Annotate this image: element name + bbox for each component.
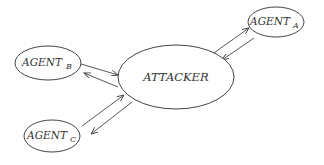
node-agent-a-label: AGENT bbox=[249, 15, 291, 27]
node-agent-b-subscript: B bbox=[65, 62, 72, 71]
node-attacker: ATTACKER bbox=[118, 45, 234, 109]
edge-agent-b-to-attacker bbox=[81, 64, 118, 75]
node-agent-a: AGENT A bbox=[248, 7, 304, 37]
edge-attacker-to-agent-b bbox=[84, 73, 118, 87]
node-agent-c: AGENT C bbox=[24, 120, 80, 152]
node-agent-a-subscript: A bbox=[292, 21, 299, 30]
node-agent-b: AGENT B bbox=[15, 46, 81, 80]
edge-attacker-to-agent-c bbox=[91, 102, 132, 134]
edge-agent-c-to-attacker bbox=[82, 95, 124, 126]
diagram-canvas: ATTACKER AGENT A AGENT B AGENT C bbox=[0, 0, 324, 165]
edge-agent-a-to-attacker bbox=[222, 38, 254, 60]
edge-attacker-to-agent-a bbox=[211, 28, 249, 55]
node-agent-b-label: AGENT bbox=[21, 56, 63, 68]
node-agent-c-label: AGENT bbox=[26, 129, 68, 141]
node-agent-c-subscript: C bbox=[70, 135, 76, 144]
node-attacker-label: ATTACKER bbox=[142, 70, 209, 84]
